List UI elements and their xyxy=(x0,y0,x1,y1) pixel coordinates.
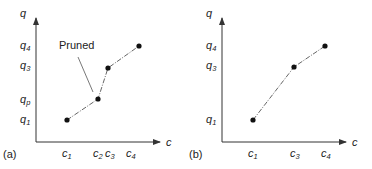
panel-label: (a) xyxy=(3,148,16,160)
pruned-callout-line xyxy=(78,57,93,92)
x-axis-label: c xyxy=(166,136,172,148)
x-tick-c1: c1 xyxy=(248,147,258,161)
x-tick-c4: c4 xyxy=(321,147,331,161)
pruned-annotation: Pruned xyxy=(59,39,94,51)
point-c2-qp xyxy=(95,96,100,101)
y-tick-qp: qp xyxy=(20,93,30,107)
point-c3-q3 xyxy=(291,64,296,69)
panel-b: q c (b) q4 q3 q1 c1 c3 c4 xyxy=(189,7,358,161)
point-c3-q3 xyxy=(105,65,110,70)
panel-a: q c (a) q4 q3 qp q1 c1 c2 c3 c4 Pruned xyxy=(3,7,172,161)
point-c1-q1 xyxy=(64,117,69,122)
y-tick-q1: q1 xyxy=(206,113,216,127)
y-axis-label: q xyxy=(20,7,27,19)
x-tick-c1: c1 xyxy=(62,147,72,161)
y-tick-q3: q3 xyxy=(20,59,31,73)
point-c4-q4 xyxy=(322,43,327,48)
x-axis-label: c xyxy=(352,136,358,148)
x-tick-c3: c3 xyxy=(290,147,301,161)
y-tick-q1: q1 xyxy=(20,113,30,127)
x-tick-c2: c2 xyxy=(93,147,104,161)
y-tick-q4: q4 xyxy=(206,39,216,53)
x-tick-c3: c3 xyxy=(105,147,116,161)
x-tick-c4: c4 xyxy=(126,147,136,161)
figure: q c (a) q4 q3 qp q1 c1 c2 c3 c4 Pruned q… xyxy=(0,0,372,169)
frontier-line xyxy=(253,46,325,120)
y-axis-label: q xyxy=(206,7,213,19)
point-c4-q4 xyxy=(136,43,141,48)
y-tick-q3: q3 xyxy=(206,59,217,73)
y-tick-q4: q4 xyxy=(20,39,30,53)
panel-label: (b) xyxy=(189,148,202,160)
point-c1-q1 xyxy=(250,117,255,122)
